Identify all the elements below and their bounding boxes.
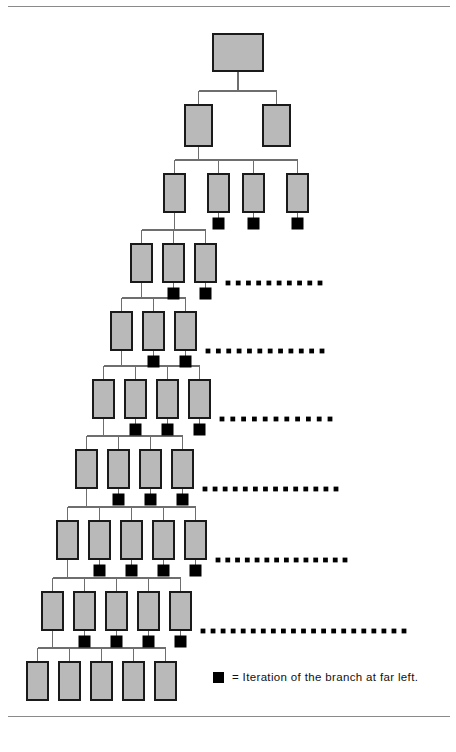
ellipsis-dot bbox=[303, 487, 308, 492]
iteration-marker-l4-2[interactable] bbox=[168, 288, 179, 299]
ellipsis-dot bbox=[301, 629, 306, 634]
tree-diagram: = Iteration of the branch at far left. bbox=[0, 0, 456, 752]
iteration-marker-l9-5[interactable] bbox=[175, 636, 186, 647]
ellipsis-dot bbox=[311, 629, 316, 634]
node-box-l10-5[interactable] bbox=[155, 662, 176, 700]
ellipsis-dot bbox=[213, 487, 218, 492]
iteration-marker-l5-2[interactable] bbox=[148, 356, 159, 367]
iteration-marker-l8-3[interactable] bbox=[126, 565, 137, 576]
node-box-l4-1[interactable] bbox=[131, 244, 152, 282]
ellipsis-dot bbox=[333, 558, 338, 563]
iteration-marker-l3-3[interactable] bbox=[248, 218, 259, 229]
node-box-l2-1[interactable] bbox=[185, 105, 212, 146]
ellipsis-dot bbox=[371, 629, 376, 634]
node-box-l8-5[interactable] bbox=[185, 521, 206, 559]
node-box-l2-2[interactable] bbox=[263, 105, 290, 146]
iteration-marker-l9-3[interactable] bbox=[111, 636, 122, 647]
iteration-marker-l3-4[interactable] bbox=[292, 218, 303, 229]
node-box-l4-2[interactable] bbox=[163, 244, 184, 282]
node-box-l4-3[interactable] bbox=[195, 244, 216, 282]
node-box-l8-3[interactable] bbox=[121, 521, 142, 559]
ellipsis-dot bbox=[263, 417, 268, 422]
node-box-l7-1[interactable] bbox=[76, 450, 97, 488]
ellipsis-dot bbox=[245, 558, 250, 563]
ellipsis-dot bbox=[243, 487, 248, 492]
node-box-l8-4[interactable] bbox=[153, 521, 174, 559]
iteration-marker-l8-5[interactable] bbox=[190, 565, 201, 576]
node-box-l7-2[interactable] bbox=[108, 450, 129, 488]
iteration-marker-l7-4[interactable] bbox=[177, 494, 188, 505]
node-box-l3-4[interactable] bbox=[287, 174, 308, 212]
ellipsis-dot bbox=[351, 629, 356, 634]
ellipsis-dot bbox=[237, 349, 242, 354]
node-box-l9-3[interactable] bbox=[106, 592, 127, 630]
node-box-l8-2[interactable] bbox=[89, 521, 110, 559]
ellipsis-dot bbox=[392, 629, 397, 634]
node-box-l10-2[interactable] bbox=[59, 662, 80, 700]
ellipsis-dot bbox=[313, 487, 318, 492]
ellipsis-dot bbox=[297, 281, 302, 286]
ellipsis-dot bbox=[289, 349, 294, 354]
ellipsis-dot bbox=[203, 487, 208, 492]
figure-root: = Iteration of the branch at far left. bbox=[0, 0, 456, 752]
ellipsis-dot bbox=[253, 487, 258, 492]
ellipsis-dot bbox=[264, 558, 269, 563]
iteration-marker-l4-3[interactable] bbox=[200, 288, 211, 299]
ellipsis-dot bbox=[216, 558, 221, 563]
ellipsis-dot bbox=[216, 349, 221, 354]
ellipsis-dot bbox=[257, 349, 262, 354]
node-box-l10-1[interactable] bbox=[27, 662, 48, 700]
node-box-l6-2[interactable] bbox=[125, 380, 146, 418]
iteration-marker-l9-2[interactable] bbox=[79, 636, 90, 647]
iteration-marker-l7-3[interactable] bbox=[145, 494, 156, 505]
ellipsis-dot bbox=[277, 281, 282, 286]
iteration-marker-l8-4[interactable] bbox=[158, 565, 169, 576]
ellipsis-dot bbox=[256, 281, 261, 286]
iteration-marker-l3-2[interactable] bbox=[213, 218, 224, 229]
ellipsis-dot bbox=[295, 417, 300, 422]
node-box-l9-5[interactable] bbox=[170, 592, 191, 630]
ellipsis-dot bbox=[291, 629, 296, 634]
node-box-l1-1[interactable] bbox=[213, 34, 263, 71]
node-box-l6-1[interactable] bbox=[93, 380, 114, 418]
ellipsis-dot bbox=[233, 487, 238, 492]
iteration-marker-l9-4[interactable] bbox=[143, 636, 154, 647]
node-box-l3-3[interactable] bbox=[243, 174, 264, 212]
connector-level-2-to-3 bbox=[175, 146, 298, 174]
ellipsis-dot bbox=[255, 558, 260, 563]
iteration-marker-l5-3[interactable] bbox=[180, 356, 191, 367]
node-box-l9-1[interactable] bbox=[42, 592, 63, 630]
iteration-marker-l6-4[interactable] bbox=[194, 424, 205, 435]
ellipsis-dot bbox=[402, 629, 407, 634]
ellipsis-dot bbox=[273, 487, 278, 492]
iteration-marker-l7-2[interactable] bbox=[113, 494, 124, 505]
node-box-l7-4[interactable] bbox=[172, 450, 193, 488]
node-box-l3-2[interactable] bbox=[208, 174, 229, 212]
node-box-l9-4[interactable] bbox=[138, 592, 159, 630]
legend-label: = Iteration of the branch at far left. bbox=[232, 671, 418, 683]
node-box-l3-1[interactable] bbox=[164, 174, 185, 212]
node-box-l6-4[interactable] bbox=[189, 380, 210, 418]
ellipsis-dot bbox=[331, 629, 336, 634]
node-box-l10-4[interactable] bbox=[123, 662, 144, 700]
ellipsis-dot bbox=[241, 629, 246, 634]
node-box-l10-3[interactable] bbox=[91, 662, 112, 700]
node-box-l5-1[interactable] bbox=[111, 312, 132, 350]
node-box-l5-2[interactable] bbox=[143, 312, 164, 350]
node-box-l6-3[interactable] bbox=[157, 380, 178, 418]
ellipsis-dot bbox=[223, 487, 228, 492]
legend-black-square-icon bbox=[213, 672, 224, 683]
ellipsis-dot bbox=[309, 349, 314, 354]
node-box-l9-2[interactable] bbox=[74, 592, 95, 630]
ellipsis-dot bbox=[283, 487, 288, 492]
node-box-l7-3[interactable] bbox=[140, 450, 161, 488]
iteration-marker-l6-3[interactable] bbox=[162, 424, 173, 435]
node-box-l5-3[interactable] bbox=[175, 312, 196, 350]
ellipsis-dot bbox=[268, 349, 273, 354]
iteration-marker-l8-2[interactable] bbox=[94, 565, 105, 576]
node-box-l8-1[interactable] bbox=[57, 521, 78, 559]
iteration-marker-l6-2[interactable] bbox=[130, 424, 141, 435]
ellipsis-dot bbox=[225, 558, 230, 563]
connector-level-7-to-8 bbox=[68, 488, 196, 521]
ellipsis-dot bbox=[324, 487, 329, 492]
